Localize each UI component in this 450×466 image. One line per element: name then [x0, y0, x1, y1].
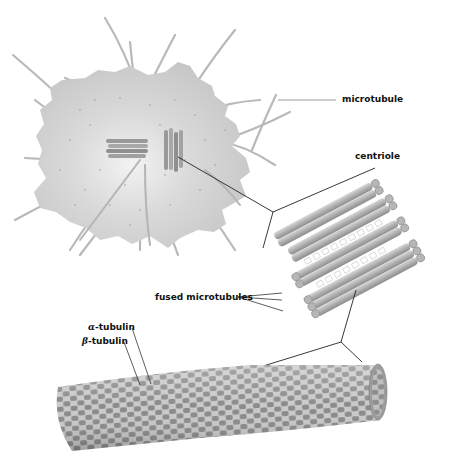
tube-shading	[57, 365, 381, 451]
label-microtubule: microtubule	[342, 94, 403, 104]
label-beta-tubulin: β-tubulin	[82, 336, 128, 346]
label-centriole: centriole	[355, 151, 400, 161]
alpha-tubulin-text: -tubulin	[95, 322, 135, 332]
tube-end-lattice	[372, 368, 384, 416]
microtubule-enlarged	[57, 364, 387, 451]
label-alpha-tubulin: α-tubulin	[88, 322, 135, 332]
beta-tubulin-text: -tubulin	[88, 336, 128, 346]
diagram-canvas: microtubule centriole fused microtubules…	[0, 0, 450, 466]
cell-body	[13, 18, 290, 255]
alpha-symbol: α	[88, 322, 95, 332]
centriole-enlarged	[269, 176, 426, 320]
label-fused-microtubules: fused microtubules	[155, 292, 253, 302]
